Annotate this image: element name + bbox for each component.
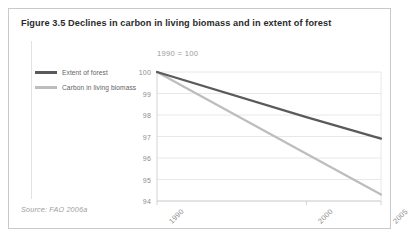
tick-marks [157, 201, 381, 205]
x-axis-tick-label: 2005 [391, 207, 410, 226]
series-line [157, 72, 381, 139]
y-axis-tick-label: 99 [131, 90, 151, 97]
series-lines [157, 72, 381, 195]
y-axis-tick-label: 94 [131, 198, 151, 205]
y-axis-tick-label: 96 [131, 155, 151, 162]
chart-canvas [9, 9, 392, 230]
y-axis-tick-label: 95 [131, 176, 151, 183]
y-axis-tick-label: 98 [131, 112, 151, 119]
source-note: Source: FAO 2006a [21, 205, 87, 214]
y-axis-tick-label: 97 [131, 133, 151, 140]
series-line [157, 72, 381, 195]
plot-area: 100999897969594 199020002005 [9, 9, 392, 230]
y-axis-tick-label: 100 [131, 69, 151, 76]
figure-card: Figure 3.5 Declines in carbon in living … [8, 8, 391, 229]
